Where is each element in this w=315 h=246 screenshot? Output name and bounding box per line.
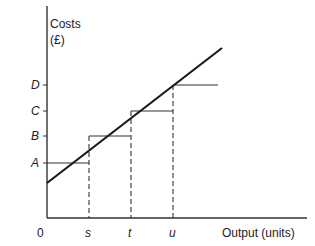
y-axis-unit: (£) [50, 33, 65, 47]
x-axis-label: Output (units) [222, 226, 295, 240]
cost-line [47, 48, 222, 183]
x-tick-label-s: s [85, 226, 91, 240]
y-tick-label-d: D [31, 78, 40, 92]
x-tick-label-u: u [169, 226, 176, 240]
origin-label: 0 [37, 226, 44, 240]
x-tick-label-t: t [128, 226, 131, 240]
y-tick-label-c: C [31, 104, 40, 118]
y-tick-label-b: B [31, 129, 39, 143]
y-axis-label: Costs [50, 17, 81, 31]
cost-diagram [0, 0, 315, 246]
stepped-cost [47, 85, 218, 218]
y-tick-label-a: A [31, 156, 39, 170]
